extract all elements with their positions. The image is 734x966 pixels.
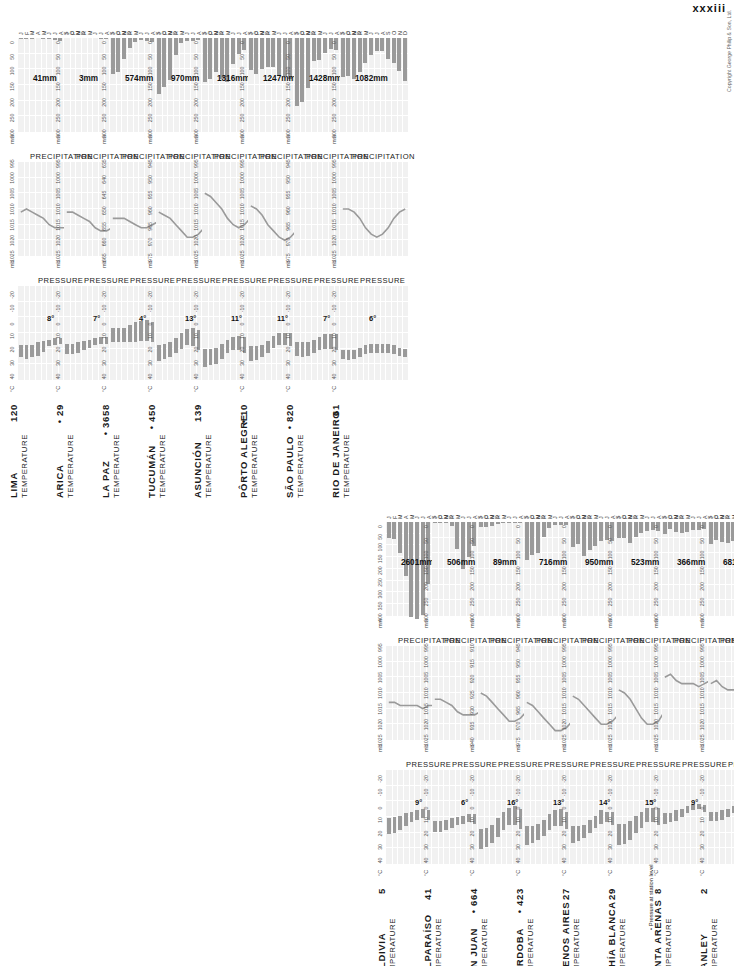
axis-tick: 0 <box>285 41 291 44</box>
axis-tick: 0 <box>331 323 337 326</box>
gridline <box>340 363 408 364</box>
temperature-bar <box>588 820 592 833</box>
axis-tick: 40 <box>331 374 337 380</box>
axis-tick: 40 <box>285 374 291 380</box>
temperature-bar <box>502 812 506 831</box>
precipitation-bar <box>47 38 51 39</box>
precipitation-bar <box>179 38 183 43</box>
precipitation-bar <box>663 522 667 534</box>
axis-tick: 30 <box>147 360 153 366</box>
axis-tick: 150 <box>653 566 659 575</box>
temperature-bar <box>318 337 322 350</box>
axis-tick: 30 <box>101 360 107 366</box>
axis-tick: 0 <box>285 323 291 326</box>
axis-tick: 20 <box>423 831 429 837</box>
temperature-bar <box>680 809 684 817</box>
station-name: PÔRTO ALEGRE <box>238 414 249 498</box>
axis-tick: 100 <box>193 67 199 76</box>
precipitation-bar <box>346 38 350 76</box>
temperature-bar <box>375 344 379 353</box>
gridline <box>340 84 408 85</box>
axis-tick: 150 <box>9 82 15 91</box>
axis-tick: 40 <box>607 858 613 864</box>
precipitation-bar <box>363 38 367 63</box>
axis-tick: 40 <box>147 374 153 380</box>
axis-tick: 200 <box>469 582 475 591</box>
temperature-bar <box>381 344 385 353</box>
precipitation-bar <box>386 38 390 59</box>
precipitation-bar <box>41 38 45 39</box>
station-name: ARICA <box>54 464 65 498</box>
temperature-bar <box>157 345 161 361</box>
precipitation-bar <box>369 38 373 55</box>
temperature-bar <box>65 344 69 355</box>
precipitation-bar <box>415 522 419 619</box>
axis-tick: 100 <box>147 67 153 76</box>
temperature-bar <box>582 825 586 838</box>
axis-tick: 250 <box>193 114 199 123</box>
axis-tick: 200 <box>9 98 15 107</box>
temperature-bar <box>128 325 132 342</box>
temperature-unit: °C <box>515 870 521 876</box>
pressure-line <box>698 644 734 762</box>
temperature-label: TEMPERATURE <box>618 918 627 966</box>
axis-tick: 30 <box>193 360 199 366</box>
axis-tick: 250 <box>331 114 337 123</box>
precipitation-bar <box>404 522 408 576</box>
temperature-bar <box>185 329 189 345</box>
precipitation-bar <box>122 38 126 59</box>
pressure-chart: PRESSUREmb102510201015101010051000995 <box>330 160 418 278</box>
axis-tick: 10 <box>607 817 613 823</box>
axis-tick: 0 <box>699 525 705 528</box>
axis-tick: 20 <box>699 831 705 837</box>
axis-tick: 100 <box>469 551 475 560</box>
precipitation-bar <box>628 522 632 543</box>
temperature-bar <box>403 349 407 357</box>
precipitation-total: 3mm <box>79 74 98 83</box>
axis-tick: 250 <box>101 114 107 123</box>
temperature-bar <box>82 341 86 350</box>
axis-tick: -10 <box>285 305 291 313</box>
axis-tick: 100 <box>9 67 15 76</box>
axis-tick: 0 <box>653 807 659 810</box>
precipitation-bar <box>392 38 396 63</box>
temperature-range-label: 9° <box>415 798 422 807</box>
temperature-bar <box>352 350 356 358</box>
precipitation-label: PRECIPITATION <box>352 152 415 161</box>
axis-tick: 200 <box>423 582 429 591</box>
precipitation-bar <box>139 38 143 40</box>
axis-tick: 100 <box>331 67 337 76</box>
temperature-bar <box>674 810 678 821</box>
temperature-unit: °C <box>285 386 291 392</box>
precipitation-bar <box>203 38 207 82</box>
station-name: RIO DE JANEIRO <box>330 411 341 498</box>
temperature-bar <box>30 345 34 357</box>
axis-tick: 20 <box>653 831 659 837</box>
precipitation-bar <box>277 38 281 76</box>
axis-tick: 40 <box>101 374 107 380</box>
station-altitude: 120 <box>8 404 19 422</box>
temperature-label: TEMPERATURE <box>526 918 535 966</box>
station-altitude: 5 <box>376 888 387 894</box>
axis-tick: -20 <box>9 291 15 299</box>
axis-tick: 150 <box>101 82 107 91</box>
axis-tick: 200 <box>331 98 337 107</box>
temperature-bar <box>386 344 390 353</box>
station-name: VALDIVIA <box>376 933 387 966</box>
axis-tick: 300 <box>101 129 107 138</box>
temperature-range-label: 6° <box>461 798 468 807</box>
station-name: STANLEY <box>698 933 709 966</box>
temperature-bar <box>301 342 305 357</box>
axis-tick: 250 <box>469 598 475 607</box>
precipitation-bar <box>490 522 494 526</box>
footnote: • Pressure at station level <box>648 864 654 930</box>
axis-tick: 150 <box>515 566 521 575</box>
axis-tick: 10 <box>515 817 521 823</box>
station-name: LIMA <box>8 472 19 498</box>
station-heading: STANLEY2TEMPERATURE <box>698 886 734 966</box>
axis-tick: -20 <box>147 291 153 299</box>
temperature-bar <box>628 821 632 840</box>
precipitation-bar <box>208 38 212 79</box>
axis-tick: 150 <box>55 82 61 91</box>
gridline <box>708 568 734 569</box>
